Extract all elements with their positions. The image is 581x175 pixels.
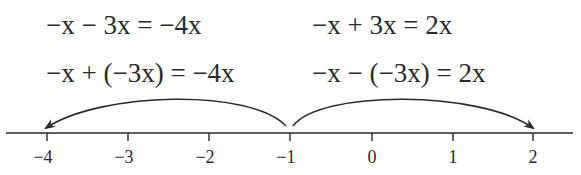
tick-label: 0: [368, 147, 377, 167]
tick-label: 1: [449, 147, 458, 167]
tick-label: −4: [33, 147, 52, 167]
tick-label: −1: [276, 147, 295, 167]
ticks: [47, 133, 533, 141]
arrow-right-arc: [293, 99, 533, 128]
number-line: −4 −3 −2 −1 0 1 2: [0, 0, 581, 175]
tick-label: −2: [195, 147, 214, 167]
tick-label: −3: [114, 147, 133, 167]
tick-label: 2: [529, 147, 538, 167]
arrow-left-arc: [46, 99, 286, 128]
